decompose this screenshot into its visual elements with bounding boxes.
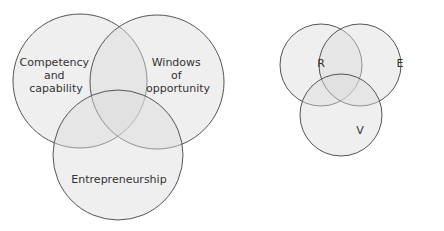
- label-r: R: [317, 57, 325, 70]
- label-v: V: [356, 124, 364, 137]
- circle-entrepreneurship: [53, 90, 183, 220]
- label-e: E: [397, 57, 404, 70]
- venn-diagrams: Competency and capability Windows of opp…: [0, 0, 444, 231]
- label-entrepreneurship: Entrepreneurship: [71, 173, 166, 186]
- left-venn-diagram: Competency and capability Windows of opp…: [13, 14, 224, 220]
- circle-v: [300, 74, 382, 156]
- right-venn-diagram: R E V: [280, 24, 404, 156]
